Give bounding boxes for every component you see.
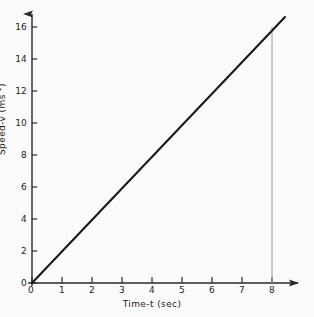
y-axis-title-suffix: ) [0,83,7,87]
x-tick-label-1: 1 [59,286,65,295]
y-tick-label-6: 6 [21,183,27,192]
x-tick-label-0: 0 [28,286,34,295]
x-tick-label-4: 4 [149,286,155,295]
y-axis-title-text: Speed-v (ms [0,94,7,155]
y-axis-title-exponent: -1 [0,87,3,94]
x-tick-label-5: 5 [179,286,185,295]
y-tick-label-8: 8 [21,151,27,160]
y-tick-label-0: 0 [21,279,27,288]
y-tick-label-2: 2 [21,247,27,256]
chart-plot-area [0,0,314,317]
y-tick-label-16: 16 [15,23,27,32]
y-tick-label-10: 10 [15,119,27,128]
x-tick-label-8: 8 [269,286,275,295]
y-tick-label-4: 4 [21,215,27,224]
x-tick-label-7: 7 [239,286,245,295]
x-tick-label-3: 3 [119,286,125,295]
y-tick-label-14: 14 [15,55,27,64]
x-tick-label-2: 2 [89,286,95,295]
y-axis-ticks [32,27,37,283]
y-axis-title: Speed-v (ms-1) [0,83,7,155]
speed-time-graph-figure: 0 2 4 6 8 10 12 14 16 0 1 2 3 4 5 6 7 8 … [0,0,314,317]
x-tick-label-6: 6 [209,286,215,295]
data-series-speed-line [32,17,285,283]
y-tick-label-12: 12 [15,87,27,96]
x-axis-ticks [32,277,272,283]
x-axis-title: Time-t (sec) [123,300,182,309]
